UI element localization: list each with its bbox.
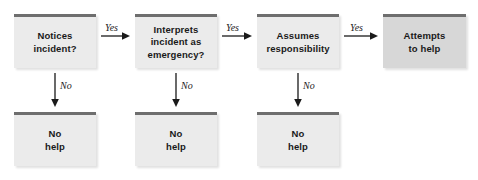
node-label: Notices incident?	[29, 30, 80, 55]
edge-label-no-1: No	[60, 80, 72, 91]
node-label: Interprets incident as emergency?	[144, 24, 209, 62]
node-label: No help	[284, 128, 312, 153]
arrow-no-3	[293, 73, 303, 107]
node-attempts-to-help: Attempts to help	[383, 14, 466, 68]
edge-label-yes-1: Yes	[105, 22, 118, 33]
node-notices: Notices incident?	[14, 14, 96, 68]
node-label: No help	[41, 128, 69, 153]
arrow-no-1	[50, 73, 60, 107]
edge-label-yes-2: Yes	[226, 22, 239, 33]
node-label: Assumes responsibility	[262, 30, 333, 55]
edge-label-no-2: No	[181, 80, 193, 91]
node-no-help-2: No help	[135, 112, 217, 166]
arrow-no-2	[171, 73, 181, 107]
node-label: No help	[162, 128, 190, 153]
node-no-help-3: No help	[257, 112, 339, 166]
node-assumes-responsibility: Assumes responsibility	[257, 14, 339, 68]
flowchart-diagram: Notices incident? Interprets incident as…	[0, 0, 478, 180]
node-label: Attempts to help	[400, 30, 450, 55]
edge-label-yes-3: Yes	[350, 22, 363, 33]
node-interprets: Interprets incident as emergency?	[135, 14, 217, 68]
edge-label-no-3: No	[303, 80, 315, 91]
node-no-help-1: No help	[14, 112, 96, 166]
